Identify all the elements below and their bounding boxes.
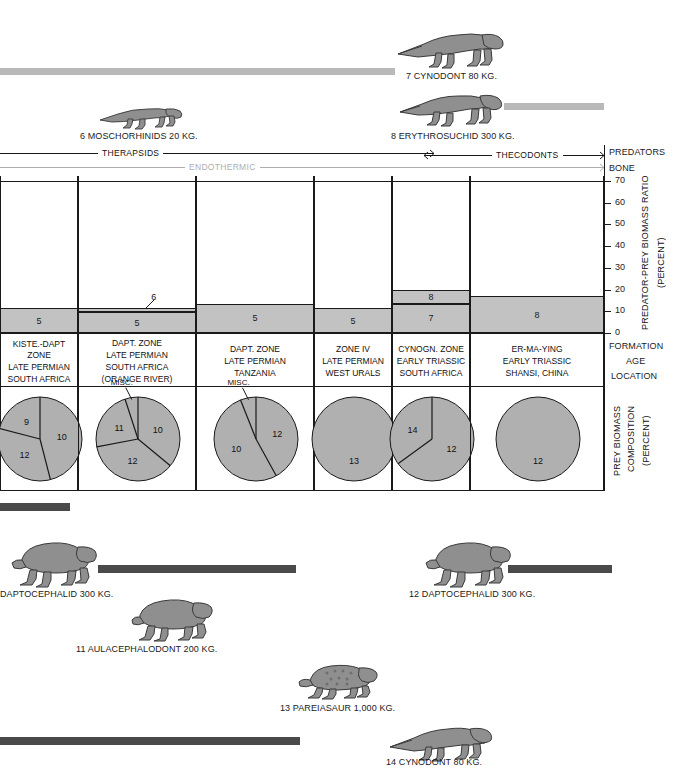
right-label-location: LOCATION [611, 371, 657, 381]
pie-chart-4: 13 [315, 387, 393, 491]
y-tick-label-60: 60 [615, 197, 625, 207]
chart-column-4: 5 [314, 176, 392, 336]
animal-illustration-cynodont-14 [388, 719, 492, 761]
pie-slice-label-12: 12 [446, 444, 456, 454]
formation-location: SOUTH AFRICA [106, 362, 169, 373]
pie-chart-3: 1210MISC. [197, 387, 315, 491]
bar-segment-5-8: 8 [393, 290, 469, 304]
pie-slice-label-11: 11 [115, 423, 124, 433]
animal-label-daptocephalid-12: 12 DAPTOCEPHALID 300 KG. [409, 589, 535, 599]
formation-formation: ZONE IV [336, 344, 370, 355]
pie-slice-label-9: 9 [24, 417, 29, 427]
pie-misc-label: MISC. [227, 378, 249, 387]
pie-axis-title-1: PREY BIOMASS [612, 395, 622, 487]
bracket-label-thecodonts: THECODONTS [492, 150, 563, 160]
scale-bar-daptocephalid-12 [508, 565, 612, 573]
predator-prey-bar-chart: 56555788 010203040506070 PREDATOR-PREY B… [0, 176, 691, 336]
bar-column-container: 56555788 [0, 176, 691, 336]
scale-bar-daptocephalid-10 [0, 503, 70, 511]
formation-cell-2: DAPT. ZONELATE PERMIANSOUTH AFRICA(ORANG… [78, 336, 196, 387]
formation-formation: CYNOGN. ZONE [398, 344, 464, 355]
formation-age-location-row: KISTE.-DAPT ZONELATE PERMIANSOUTH AFRICA… [0, 336, 691, 387]
formation-location: SOUTH AFRICA [8, 374, 71, 385]
scale-bar-moschorhinids [0, 68, 395, 75]
bottom-animal-gallery: DAPTOCEPHALID 300 KG. 11 AULACEPHALODONT… [0, 491, 691, 776]
bracket-label-endothermic: ENDOTHERMIC [185, 162, 260, 172]
y-tick-50 [604, 224, 611, 225]
chart-column-5: 78 [392, 176, 470, 336]
pie-slice-label-10: 10 [57, 432, 67, 442]
formation-age: LATE PERMIAN [8, 362, 70, 373]
y-tick-20 [604, 290, 611, 291]
chart-column-6: 8 [470, 176, 604, 336]
formation-formation: KISTE.-DAPT ZONE [1, 339, 77, 361]
pie-chart-6: 12 [471, 387, 605, 491]
pie-chart-2: 101211MISC. [79, 387, 197, 491]
pie-misc-label: MISC. [111, 378, 133, 387]
y-tick-label-20: 20 [615, 284, 625, 294]
y-tick-label-40: 40 [615, 240, 625, 250]
pie-column-container: 10129101211MISC.1210MISC.13121412 [0, 387, 691, 491]
formation-formation: DAPT. ZONE [230, 344, 280, 355]
animal-label-moschorhinids-6: 6 MOSCHORHINIDS 20 KG. [80, 131, 198, 141]
top-animal-gallery: 7 CYNODONT 80 KG. 6 MOSCHORHINIDS 20 KG.… [0, 0, 691, 143]
pie-slice-label-12: 12 [272, 429, 282, 439]
formation-location: WEST URALS [325, 368, 380, 379]
bar-value-label: 5 [350, 316, 355, 326]
pie-chart-1: 10129 [1, 387, 79, 491]
formation-location: SHANSI, CHINA [506, 368, 569, 379]
animal-illustration-pareiasaur-13 [297, 661, 383, 699]
bar-segment-6-8: 8 [471, 296, 603, 333]
y-tick-60 [604, 203, 611, 204]
right-axis-rule-top [604, 145, 605, 176]
pie-cell-1: 10129 [0, 387, 78, 491]
bar-value-label: 5 [252, 313, 257, 323]
formation-formation: ER-MA-YING [512, 344, 563, 355]
animal-illustration-daptocephalid-12 [424, 537, 514, 587]
pie-slice-label-12: 12 [533, 456, 543, 466]
pie-cell-6: 12 [470, 387, 604, 491]
pie-cell-2: 101211MISC. [78, 387, 196, 491]
animal-label-erythrosuchid-8: 8 ERYTHROSUCHID 300 KG. [391, 131, 515, 141]
y-tick-label-50: 50 [615, 218, 625, 228]
bar-segment-5-7: 7 [393, 304, 469, 333]
y-tick-label-10: 10 [615, 305, 625, 315]
bracket-line-therapsids [0, 153, 432, 154]
bar-value-label: 5 [36, 316, 41, 326]
formation-age: LATE PERMIAN [224, 356, 286, 367]
pie-slice-label-12: 12 [20, 450, 30, 460]
formation-column-container: KISTE.-DAPT ZONELATE PERMIANSOUTH AFRICA… [0, 336, 691, 387]
bracket-arrow-thecodonts-left [422, 150, 436, 161]
animal-illustration-erythrosuchid-8 [398, 88, 504, 126]
y-tick-0 [604, 333, 611, 334]
pie-chart-5: 1214 [393, 387, 471, 491]
pie-slice-label-10: 10 [153, 425, 163, 435]
bar-segment-2-5: 5 [79, 312, 195, 333]
formation-age: LATE PERMIAN [106, 350, 168, 361]
pie-axis-title-2: COMPOSITION [626, 391, 636, 487]
pie-slice-label-14: 14 [408, 425, 418, 435]
prey-biomass-pie-row: 10129101211MISC.1210MISC.13121412 PREY B… [0, 387, 691, 491]
bar-segment-2-6 [79, 308, 195, 312]
animal-label-aulacephalodont-11: 11 AULACEPHALODONT 200 KG. [76, 644, 217, 654]
pie-slice-label-12: 12 [128, 456, 138, 466]
animal-label-daptocephalid-10: DAPTOCEPHALID 300 KG. [0, 589, 113, 599]
y-tick-10 [604, 311, 611, 312]
bar-segment-4-5: 5 [315, 308, 391, 333]
formation-formation: DAPT. ZONE [112, 338, 162, 349]
y-tick-40 [604, 246, 611, 247]
animal-illustration-moschorhinids-6 [98, 104, 184, 130]
formation-age: EARLY TRIASSIC [503, 356, 572, 367]
scale-bar-daptocephalid-10b [98, 565, 296, 573]
bar-segment-3-5: 5 [197, 304, 313, 333]
animal-illustration-cynodont-7 [396, 24, 506, 69]
bar-value-label: 8 [534, 310, 539, 320]
chart-column-2: 5 [78, 176, 196, 336]
pie-cell-3: 1210MISC. [196, 387, 314, 491]
formation-cell-6: ER-MA-YINGEARLY TRIASSICSHANSI, CHINA [470, 336, 604, 387]
pie-slice-label-10: 10 [231, 444, 241, 454]
y-tick-label-70: 70 [615, 175, 625, 185]
bracket-label-therapsids: THERAPSIDS [98, 148, 163, 158]
formation-location: SOUTH AFRICA [400, 368, 463, 379]
pie-axis-units: (PERCENT) [641, 409, 651, 473]
